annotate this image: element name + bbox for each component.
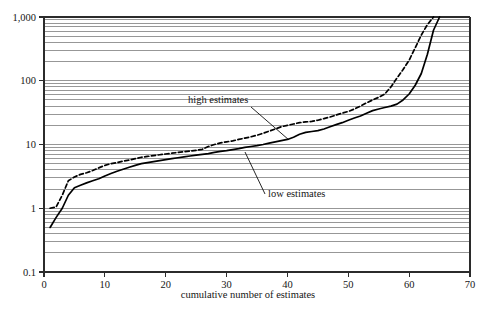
chart-background xyxy=(0,0,497,312)
x-tick-label: 50 xyxy=(343,279,354,290)
y-tick-label: 1 xyxy=(31,203,36,214)
annotation-label: low estimates xyxy=(268,188,325,199)
y-tick-label: 10 xyxy=(26,139,37,150)
x-tick-label: 0 xyxy=(41,279,46,290)
x-tick-label: 60 xyxy=(404,279,415,290)
chart-svg: 010203040506070 0.11101001,000 high esti… xyxy=(0,0,497,312)
y-tick-label: 100 xyxy=(20,75,36,86)
y-tick-label: 1,000 xyxy=(12,12,36,23)
chart-figure: 010203040506070 0.11101001,000 high esti… xyxy=(0,0,497,312)
x-tick-label: 70 xyxy=(465,279,476,290)
annotation-label: high estimates xyxy=(188,94,248,105)
x-tick-label: 10 xyxy=(100,279,111,290)
x-tick-label: 20 xyxy=(160,279,171,290)
y-tick-label: 0.1 xyxy=(23,267,36,278)
x-axis-label: cumulative number of estimates xyxy=(181,289,315,300)
